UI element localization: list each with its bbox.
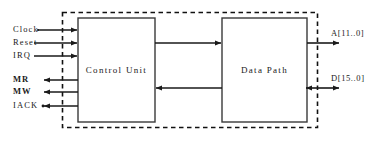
data-path-label: Data Path (222, 66, 307, 75)
irq-label: IRQ (13, 51, 31, 60)
mr-label: MR (13, 75, 29, 84)
address-bus-label: A[11..0] (331, 29, 364, 38)
diagram-canvas (0, 0, 380, 145)
reset-label: Reset (13, 38, 37, 47)
control-unit-label: Control Unit (78, 66, 155, 75)
iack-signal-dot (42, 105, 45, 108)
block-diagram: Control Unit Data Path Clock Reset IRQ M… (0, 0, 380, 145)
clock-label: Clock (13, 25, 39, 34)
data-bus-label: D[15..0] (331, 74, 365, 83)
iack-label: IACK (13, 101, 38, 110)
mw-label: MW (13, 87, 32, 96)
